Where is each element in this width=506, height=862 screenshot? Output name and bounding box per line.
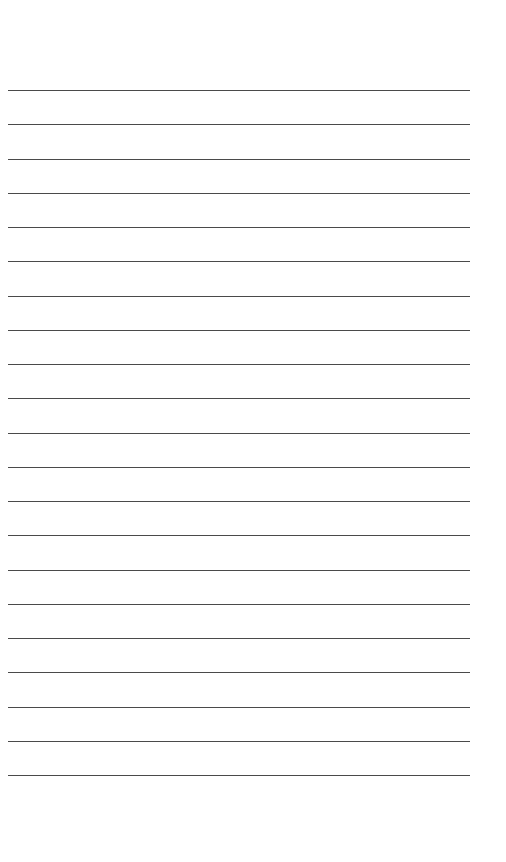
ruled-line [8,775,470,776]
ruled-line [8,193,470,194]
ruled-line [8,433,470,434]
ruled-line [8,570,470,571]
ruled-line [8,261,470,262]
ruled-line [8,467,470,468]
ruled-line [8,364,470,365]
ruled-line [8,398,470,399]
ruled-line [8,535,470,536]
ruled-line [8,330,470,331]
ruled-line [8,707,470,708]
ruled-line [8,672,470,673]
ruled-line [8,227,470,228]
ruled-line [8,604,470,605]
ruled-line [8,124,470,125]
ruled-line [8,159,470,160]
ruled-line [8,90,470,91]
ruled-line [8,638,470,639]
ruled-line [8,296,470,297]
ruled-line [8,501,470,502]
ruled-line [8,741,470,742]
